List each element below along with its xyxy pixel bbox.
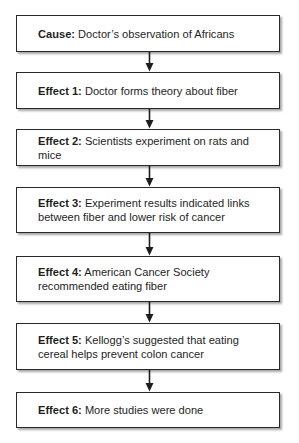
effect-4-label: Effect 4: <box>38 266 82 278</box>
cause-text: Cause: Doctor’s observation of Africans <box>38 27 234 41</box>
effect-5-box: Effect 5: Kellogg’s suggested that eatin… <box>16 323 280 370</box>
effect-1-label: Effect 1: <box>38 85 82 97</box>
cause-label: Cause: <box>38 28 75 40</box>
effect-5-label: Effect 5: <box>38 334 82 346</box>
effect-2-label: Effect 2: <box>38 135 82 147</box>
effect-4-text: Effect 4: American Cancer Society recomm… <box>38 265 271 293</box>
effect-6-text: Effect 6: More studies were done <box>38 403 203 417</box>
effect-2-text: Effect 2: Scientists experiment on rats … <box>38 134 271 162</box>
arrow-down-icon <box>144 52 155 72</box>
effect-1-text: Effect 1: Doctor forms theory about fibe… <box>38 84 238 98</box>
arrow-down-icon <box>144 302 155 323</box>
effect-6-label: Effect 6: <box>38 404 82 416</box>
arrow-down-icon <box>144 370 155 392</box>
arrow-down-icon <box>144 109 155 129</box>
effect-5-text: Effect 5: Kellogg’s suggested that eatin… <box>38 333 271 361</box>
effect-3-box: Effect 3: Experiment results indicated l… <box>16 187 280 233</box>
effect-1-box: Effect 1: Doctor forms theory about fibe… <box>16 72 280 109</box>
cause-box: Cause: Doctor’s observation of Africans <box>16 15 280 52</box>
effect-3-label: Effect 3: <box>38 197 82 209</box>
effect-1-description: Doctor forms theory about fiber <box>85 85 238 97</box>
effect-6-box: Effect 6: More studies were done <box>16 392 280 428</box>
effect-2-box: Effect 2: Scientists experiment on rats … <box>16 129 280 166</box>
effect-4-box: Effect 4: American Cancer Society recomm… <box>16 256 280 302</box>
effect-3-text: Effect 3: Experiment results indicated l… <box>38 196 271 224</box>
cause-description: Doctor’s observation of Africans <box>78 28 234 40</box>
arrow-down-icon <box>144 166 155 187</box>
cause-effect-diagram: Cause: Doctor’s observation of Africans … <box>0 0 299 443</box>
effect-6-description: More studies were done <box>85 404 203 416</box>
arrow-down-icon <box>144 233 155 256</box>
